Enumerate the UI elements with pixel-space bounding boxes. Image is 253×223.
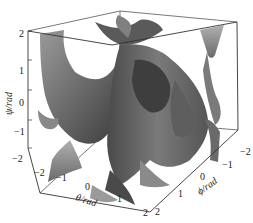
y-tick-neg1: −1 — [222, 159, 233, 170]
z-tick-neg2: −2 — [12, 153, 23, 164]
z-tick-1: 1 — [19, 65, 24, 76]
x-tick-0: 0 — [85, 181, 90, 192]
x-tick-1: 1 — [117, 193, 122, 204]
surface-plot-3d: 2 1 0 −1 −2 ψ/rad −2 −1 0 1 2 θ/rad −2 −… — [0, 0, 253, 223]
z-tick-0: 0 — [19, 97, 24, 108]
y-tick-1: 1 — [178, 188, 183, 199]
y-tick-neg2: −2 — [240, 146, 251, 157]
y-tick-2: 2 — [155, 206, 160, 217]
z-tick-2: 2 — [19, 28, 24, 39]
z-tick-neg1: −1 — [14, 126, 25, 137]
x-tick-neg1: −1 — [56, 172, 67, 183]
z-axis-label: ψ/rad — [3, 91, 14, 115]
x-tick-neg2: −2 — [34, 167, 45, 178]
y-axis-label: ϕ/rad — [195, 175, 220, 197]
x-tick-2: 2 — [143, 207, 148, 218]
